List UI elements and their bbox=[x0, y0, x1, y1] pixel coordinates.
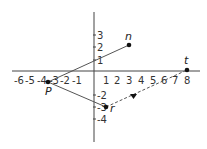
x-tick: 6 bbox=[161, 75, 167, 86]
x-tick: -5 bbox=[25, 75, 35, 86]
direction-arrow-icon bbox=[130, 94, 137, 99]
x-tick: 8 bbox=[184, 75, 190, 86]
point-t bbox=[185, 68, 190, 73]
y-tick: 2 bbox=[97, 42, 103, 53]
label-r: r bbox=[110, 102, 116, 115]
point-p bbox=[46, 80, 51, 85]
label-n: n bbox=[125, 30, 132, 43]
x-tick: -6 bbox=[14, 75, 24, 86]
coordinate-plane: -6 -5 -4 -3 -2 -1 1 2 3 4 5 6 7 8 1 2 3 … bbox=[0, 0, 207, 149]
y-tick: 3 bbox=[97, 30, 103, 41]
x-tick: 4 bbox=[138, 75, 144, 86]
x-tick: 7 bbox=[172, 75, 178, 86]
x-tick: 3 bbox=[126, 75, 132, 86]
y-tick: -2 bbox=[97, 90, 107, 101]
point-r bbox=[104, 105, 109, 110]
x-tick: 5 bbox=[150, 75, 156, 86]
label-p: P bbox=[45, 85, 52, 98]
point-n bbox=[127, 43, 132, 48]
x-tick: 2 bbox=[114, 75, 120, 86]
x-tick: 1 bbox=[103, 75, 109, 86]
y-tick: -4 bbox=[97, 114, 107, 125]
label-t: t bbox=[184, 54, 189, 67]
x-tick: -1 bbox=[72, 75, 82, 86]
x-tick-labels: -6 -5 -4 -3 -2 -1 1 2 3 4 5 6 7 8 bbox=[14, 75, 190, 86]
x-tick: -2 bbox=[60, 75, 70, 86]
